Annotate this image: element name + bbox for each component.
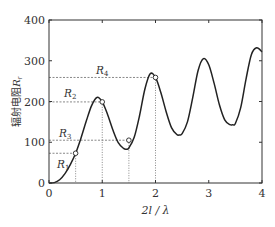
y-tick-label: 400 (24, 14, 45, 27)
axis-ticks (49, 20, 262, 183)
marker-point (153, 75, 158, 80)
x-tick-label: 3 (205, 187, 212, 200)
x-tick-label: 2 (152, 187, 159, 200)
marker-point (100, 100, 105, 105)
radiation-resistance-chart: R1R2R3R4 0123401002003004002l / λ辐射电阻Rr (0, 0, 275, 227)
marker-label-r2: R2 (63, 87, 76, 101)
x-tick-label: 0 (46, 187, 53, 200)
x-tick-label: 4 (259, 187, 266, 200)
axis-labels: 0123401002003004002l / λ辐射电阻Rr (10, 14, 266, 217)
marker-label-r4: R4 (95, 64, 109, 78)
x-axis-title: 2l / λ (140, 204, 169, 217)
y-tick-label: 300 (24, 55, 45, 68)
x-tick-label: 1 (99, 187, 106, 200)
y-tick-label: 200 (24, 96, 45, 109)
marker-point (73, 151, 78, 156)
marker-point (127, 138, 132, 143)
plot-frame (49, 20, 262, 183)
y-tick-label: 0 (38, 177, 45, 190)
marker-label-r1: R1 (56, 158, 69, 172)
y-tick-label: 100 (24, 136, 45, 149)
marker-label-r3: R3 (58, 127, 71, 141)
marker-layer: R1R2R3R4 (56, 64, 158, 172)
y-axis-title: 辐射电阻Rr (10, 76, 24, 127)
svg-text:辐射电阻Rr: 辐射电阻Rr (10, 76, 24, 127)
